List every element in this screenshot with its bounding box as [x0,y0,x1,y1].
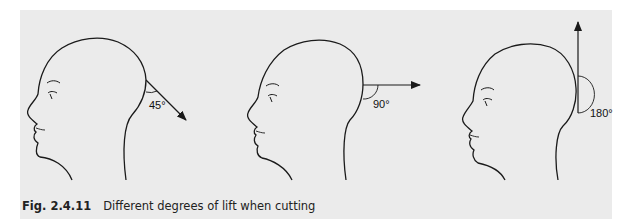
angle-label-45: 45° [149,99,166,111]
angle-arc-90 [363,85,378,99]
head-45 [28,38,146,180]
figure-title: Different degrees of lift when cutting [103,199,315,213]
angle-arc-45 [146,91,157,93]
head-diagrams: 45° 90° 180° [0,0,637,219]
angle-label-180: 180° [590,107,613,119]
figure-caption: Fig. 2.4.11Different degrees of lift whe… [22,199,315,213]
figure-number: Fig. 2.4.11 [22,199,91,213]
head-180 [463,44,577,180]
head-90 [248,40,363,180]
angle-label-90: 90° [373,98,390,110]
